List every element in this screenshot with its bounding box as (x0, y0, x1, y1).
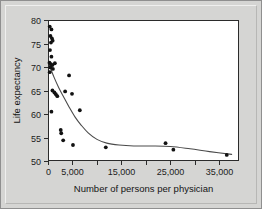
y-tick-label: 60 (31, 110, 41, 120)
data-point (48, 70, 52, 74)
x-tick-label: 15,000 (108, 167, 136, 177)
figure-inner-panel: 5055606570758005,00015,00025,00035,000Nu… (5, 5, 257, 204)
y-tick-label: 75 (31, 40, 41, 50)
y-tick-label: 70 (31, 63, 41, 73)
data-point (67, 74, 71, 78)
data-point (104, 145, 108, 149)
scatter-chart: 5055606570758005,00015,00025,00035,000Nu… (6, 6, 258, 205)
data-point (50, 28, 54, 32)
data-point (171, 148, 175, 152)
data-point (48, 48, 52, 52)
data-point (61, 138, 65, 142)
data-point (50, 55, 54, 59)
data-point (70, 92, 74, 96)
data-point (225, 153, 229, 157)
x-tick-label: 5,000 (61, 167, 84, 177)
y-tick-label: 80 (31, 16, 41, 26)
x-axis-title: Number of persons per physician (74, 183, 213, 194)
figure-container: 5055606570758005,00015,00025,00035,000Nu… (0, 0, 262, 209)
x-tick-label: 25,000 (157, 167, 185, 177)
data-point (50, 110, 54, 114)
data-point (59, 131, 63, 135)
data-point (164, 141, 168, 145)
data-point (63, 90, 67, 94)
y-tick-label: 65 (31, 87, 41, 97)
data-point (51, 67, 55, 71)
plot-area-background (48, 20, 239, 161)
data-point (53, 61, 57, 65)
x-tick-label: 0 (46, 167, 51, 177)
data-point (59, 128, 63, 132)
y-axis-title: Life expectancy (11, 57, 22, 123)
y-tick-label: 55 (31, 134, 41, 144)
data-point (78, 108, 82, 112)
data-point (55, 94, 59, 98)
y-tick-label: 50 (31, 157, 41, 167)
data-point (49, 41, 53, 45)
data-point (71, 143, 75, 147)
x-tick-label: 35,000 (206, 167, 234, 177)
